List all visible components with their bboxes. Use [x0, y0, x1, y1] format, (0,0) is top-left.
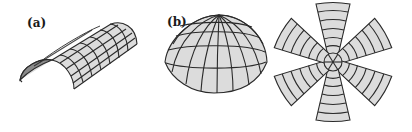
dome-figure	[165, 15, 267, 93]
petal-star-figure	[273, 3, 393, 122]
half-cylinder-figure	[20, 23, 137, 89]
